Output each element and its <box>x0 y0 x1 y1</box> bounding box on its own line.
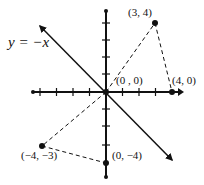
x-axis-left-end-dot <box>31 90 35 94</box>
point-4-0 <box>169 89 175 95</box>
point-label-neg4-neg3: (−4, −3) <box>21 149 58 162</box>
line-label: y = −x <box>6 34 49 50</box>
y-axis-top-end-dot <box>104 9 108 13</box>
point-3-4 <box>152 20 158 26</box>
point-label-4-0: (4, 0) <box>172 74 196 87</box>
point-origin <box>103 89 109 95</box>
segment-origin-to-neg4-neg3 <box>42 92 106 146</box>
y-axis-bottom-end-dot <box>104 175 108 179</box>
point-label-0-neg4: (0, −4) <box>112 149 142 162</box>
x-axis-arrow-icon <box>178 88 184 96</box>
point-0-neg4 <box>103 160 109 166</box>
segment-3-4-to-4-0 <box>155 23 172 92</box>
coordinate-diagram: y = −x (3, 4) (0 , 0) (4, 0) (−4, −3) (0… <box>0 0 204 185</box>
point-label-3-4: (3, 4) <box>128 6 152 19</box>
point-label-origin: (0 , 0) <box>116 74 143 87</box>
